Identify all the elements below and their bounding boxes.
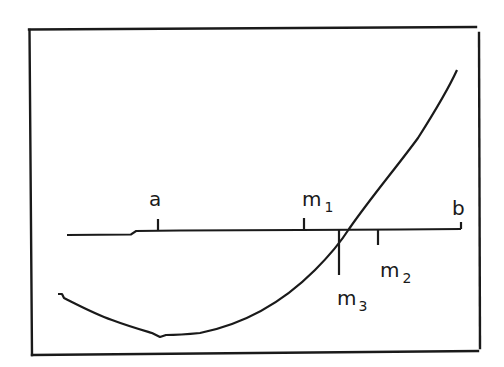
frame-right xyxy=(479,33,480,348)
label-m2: m2 xyxy=(380,258,411,286)
label-m3: m3 xyxy=(337,286,367,314)
axis-line xyxy=(67,229,461,235)
bisection-diagram: a m1 b m2 m3 xyxy=(0,0,504,367)
label-b: b xyxy=(452,196,465,220)
frame-top xyxy=(29,27,476,30)
frame-left xyxy=(30,30,33,355)
frame xyxy=(29,27,480,355)
frame-bottom xyxy=(32,351,478,355)
function-curve xyxy=(58,70,457,337)
label-m1: m1 xyxy=(302,187,333,215)
label-a: a xyxy=(149,187,161,211)
diagram-canvas: a m1 b m2 m3 xyxy=(0,0,504,367)
labels: a m1 b m2 m3 xyxy=(149,187,465,314)
x-axis xyxy=(67,218,461,275)
